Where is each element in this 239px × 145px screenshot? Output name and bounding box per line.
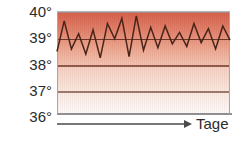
- plot-area: [57, 12, 230, 114]
- fever-temperature-chart: 40° 39° 38° 37° 36° Tage: [0, 0, 239, 145]
- ytick-label-38: 38°: [29, 56, 52, 73]
- ytick-label-39: 39°: [29, 29, 52, 46]
- ytick-label-37: 37°: [29, 82, 52, 99]
- xaxis-title: Tage: [196, 115, 229, 132]
- ytick-label-40: 40°: [29, 3, 52, 20]
- ytick-label-36: 36°: [29, 108, 52, 125]
- band-texture-overlay: [57, 12, 230, 114]
